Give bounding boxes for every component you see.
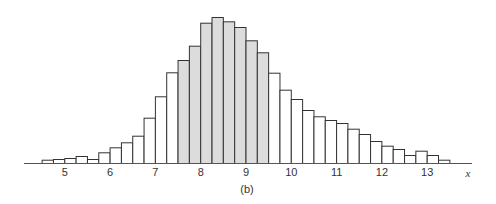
histogram-bar	[393, 150, 404, 164]
x-tick-label: 12	[376, 166, 388, 178]
x-tick-label: 6	[107, 166, 113, 178]
histogram-bar	[348, 129, 359, 163]
figure-caption: (b)	[240, 183, 253, 195]
histogram-bar-shaded	[212, 18, 223, 164]
histogram-bar	[76, 157, 87, 164]
histogram-bar	[325, 121, 336, 164]
histogram-bar	[427, 156, 438, 164]
x-tick-labels: 5678910111213	[62, 166, 434, 178]
histogram-bar	[337, 124, 348, 164]
histogram-bar	[87, 160, 98, 164]
histogram-chart: 5678910111213 x (b)	[0, 0, 496, 204]
histogram-bar	[280, 90, 291, 163]
histogram-bar	[382, 146, 393, 163]
histogram-bar-shaded	[235, 28, 246, 164]
histogram-bar	[359, 135, 370, 164]
x-tick-label: 9	[243, 166, 249, 178]
histogram-bar-shaded	[223, 22, 234, 164]
x-tick-label: 8	[198, 166, 204, 178]
x-tick-label: 11	[331, 166, 342, 178]
histogram-bar	[110, 148, 121, 164]
x-tick-label: 7	[152, 166, 158, 178]
histogram-bar-shaded	[257, 53, 268, 164]
histogram-bar	[291, 100, 302, 164]
histogram-bar	[416, 151, 427, 163]
histogram-bar	[144, 118, 155, 163]
histogram-bar	[167, 73, 178, 164]
histogram-bar	[53, 160, 64, 164]
histogram-bar	[121, 143, 132, 164]
x-tick-label: 5	[62, 166, 68, 178]
histogram-bar	[65, 159, 76, 164]
histogram-bar-shaded	[178, 61, 189, 164]
histogram-bar	[133, 136, 144, 163]
histogram-bar-shaded	[246, 41, 257, 164]
histogram-bar-shaded	[201, 23, 212, 163]
histogram-bar-shaded	[189, 46, 200, 163]
histogram-bar	[314, 117, 325, 164]
histogram-bar	[303, 111, 314, 164]
x-axis-label: x	[465, 167, 471, 179]
x-tick-label: 13	[421, 166, 433, 178]
histogram-bar	[405, 156, 416, 164]
histogram-bar	[99, 153, 110, 164]
histogram-bar	[371, 142, 382, 164]
histogram-bar	[269, 73, 280, 163]
histogram-bar	[155, 97, 166, 164]
x-tick-label: 10	[285, 166, 297, 178]
histogram-bars	[42, 18, 450, 164]
